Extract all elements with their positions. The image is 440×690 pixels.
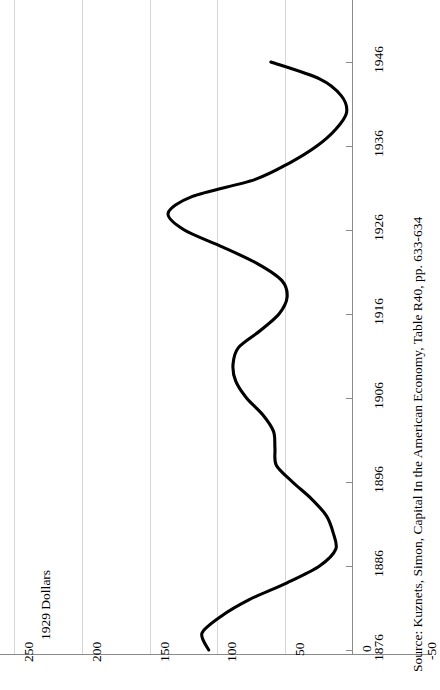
value-tick-label-250: 250 (21, 642, 37, 662)
year-tick-label-1876: 1876 (371, 634, 387, 661)
value-tick-label-150: 150 (157, 642, 173, 662)
value-tick-label-neg50: -50 (424, 642, 440, 660)
value-tick-label-50: 50 (292, 643, 308, 657)
year-tick-label-1926: 1926 (371, 214, 387, 241)
year-tick-label-1936: 1936 (371, 130, 387, 157)
year-tick-label-1946: 1946 (371, 46, 387, 73)
year-tick-label-1916: 1916 (371, 298, 387, 325)
source-note: Source: Kuznets, Simon, Capital In the A… (410, 217, 426, 672)
value-tick-label-100: 100 (224, 642, 240, 662)
value-tick-label-200: 200 (89, 642, 105, 662)
year-tick-label-1896: 1896 (371, 466, 387, 493)
year-tick-label-1906: 1906 (371, 382, 387, 409)
value-axis-title: 1929 Dollars (38, 570, 54, 640)
year-tick-label-1886: 1886 (371, 550, 387, 577)
